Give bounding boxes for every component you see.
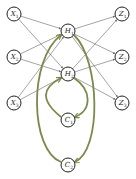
node-z3: Z3 bbox=[115, 96, 129, 110]
node-z2: Z2 bbox=[115, 50, 129, 64]
node-x2: X2 bbox=[7, 50, 21, 64]
feedback-edges-layer bbox=[37, 35, 94, 162]
edge-h2-z1 bbox=[73, 20, 117, 69]
feedback-edge-h1-c2 bbox=[74, 35, 94, 162]
edge-x1-h1 bbox=[21, 16, 61, 29]
edge-h2-z2 bbox=[75, 59, 115, 72]
feedback-edge-c1-h2 bbox=[46, 78, 61, 117]
node-z1: Z1 bbox=[115, 7, 129, 21]
edge-h1-z1 bbox=[75, 16, 115, 29]
edge-x2-h1 bbox=[20, 34, 61, 54]
nodes-layer: X1X2X3H1H2Z1Z2Z3C1C2 bbox=[7, 7, 129, 172]
node-c2: C2 bbox=[61, 158, 75, 172]
node-c1: C1 bbox=[61, 113, 75, 127]
node-x3: X3 bbox=[7, 96, 21, 110]
edge-h1-z3 bbox=[72, 37, 117, 97]
node-h2: H2 bbox=[61, 67, 75, 81]
node-x1: X1 bbox=[7, 7, 21, 21]
node-h1: H1 bbox=[61, 24, 75, 38]
feedback-edge-h2-c1 bbox=[74, 78, 88, 117]
feedback-edge-c2-h1 bbox=[37, 35, 61, 162]
neural-network-diagram: X1X2X3H1H2Z1Z2Z3C1C2 bbox=[0, 0, 136, 179]
